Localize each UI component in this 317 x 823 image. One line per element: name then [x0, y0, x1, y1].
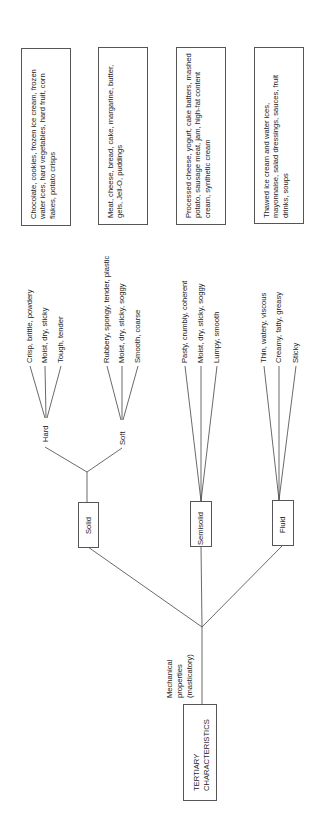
example-text-solid-soft: Meat, cheese, bread, cake, margarine, bu…	[106, 58, 125, 218]
root-label-line-1: TERTIARY	[192, 754, 202, 791]
state-label-semisolid: Semisolid	[196, 512, 206, 545]
attribute-fluid-2: Creamy, fatty, greasy	[274, 292, 284, 363]
state-label-solid: Solid	[84, 517, 94, 534]
example-text-semisolid: Processed cheese, yogurt, cake batters, …	[184, 53, 212, 218]
subgroup-soft-label: Soft	[118, 430, 128, 446]
state-box-fluid: Fluid	[272, 500, 294, 546]
example-box-solid-hard: Chocolate, cookies, frozen ice cream, fr…	[21, 48, 71, 226]
example-text-fluid: Thawed ice cream and water ices, mayonna…	[262, 58, 290, 218]
attribute-soft-1: Rubbery, spongy, tender, plastic	[102, 256, 112, 363]
attribute-semisolid-3: Lumpy, smooth	[212, 312, 222, 363]
edge-label-line-2: properties	[175, 664, 185, 698]
state-box-solid: Solid	[78, 502, 99, 548]
attribute-soft-2: Moist, dry, sticky, soggy	[117, 284, 127, 363]
example-text-solid-hard: Chocolate, cookies, frozen ice cream, fr…	[29, 59, 57, 219]
attribute-hard-2: Moist, dry, sticky	[40, 307, 50, 363]
subgroup-hard-label: Hard	[41, 425, 51, 443]
attribute-hard-3: Tough, tender	[56, 317, 66, 363]
root-box-tertiary-characteristics: TERTIARY CHARACTERISTICS	[183, 704, 217, 801]
edge-label-line-3: (masticatory)	[185, 654, 195, 698]
root-label-line-2: CHARACTERISTICS	[202, 719, 212, 791]
attribute-soft-3: Smooth, coarse	[133, 310, 143, 363]
example-box-fluid: Thawed ice cream and water ices, mayonna…	[254, 47, 304, 224]
attribute-semisolid-2: Moist, dry, sticky, soggy	[196, 284, 206, 363]
state-label-fluid: Fluid	[278, 517, 288, 533]
attribute-fluid-3: Sticky	[291, 343, 301, 363]
attribute-fluid-1: Thin, watery, viscous	[259, 293, 269, 363]
attribute-hard-1: Crisp, brittle, powdery	[25, 290, 35, 363]
example-box-solid-soft: Meat, cheese, bread, cake, margarine, bu…	[98, 47, 148, 225]
state-box-semisolid: Semisolid	[190, 501, 212, 547]
edge-label-line-1: Mechanical	[165, 660, 175, 698]
example-box-semisolid: Processed cheese, yogurt, cake batters, …	[176, 47, 226, 225]
attribute-semisolid-1: Pasty, crumbly, coherent	[180, 281, 190, 363]
